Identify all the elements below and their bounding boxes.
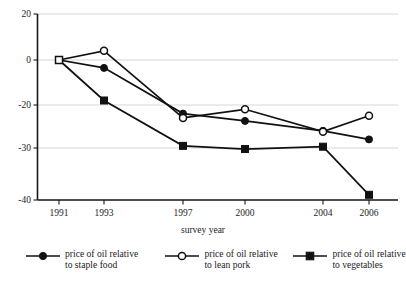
y-tick-label: -20 — [18, 100, 31, 110]
line-chart-plot: 200-20-30-40 199119931997200020042006 su… — [0, 0, 406, 283]
legend-label-staple-food: price of oil relative to staple food — [65, 248, 138, 270]
x-tick-label: 2006 — [360, 208, 379, 218]
data-point-s2-i2 — [180, 142, 187, 149]
y-tick-label: 20 — [22, 9, 32, 19]
data-point-s2-i4 — [320, 143, 327, 150]
data-point-s1-i1 — [101, 47, 108, 54]
x-axis-tick-labels: 199119931997200020042006 — [50, 208, 379, 218]
gridlines — [38, 14, 399, 200]
series-lines — [59, 51, 369, 195]
x-tick-label: 1997 — [174, 208, 193, 218]
x-tick-label: 1993 — [95, 208, 114, 218]
y-tick-label: 0 — [26, 55, 31, 65]
y-tick-label: -30 — [18, 143, 31, 153]
data-point-s1-i3 — [242, 106, 249, 113]
legend-swatch-filled-square — [291, 249, 329, 263]
legend-label-lean-pork: price of oil relative to lean pork — [204, 248, 277, 270]
data-point-s0-i3 — [242, 117, 249, 124]
y-tick-label: -40 — [18, 195, 31, 205]
legend-item-vegetables: price of oil relative to vegetables — [291, 248, 406, 270]
x-axis-title: survey year — [181, 225, 226, 235]
data-point-s2-i1 — [101, 97, 108, 104]
series-markers — [56, 47, 373, 198]
series-line-1 — [59, 51, 369, 132]
data-point-s1-i4 — [320, 128, 327, 135]
y-axis-tick-labels: 200-20-30-40 — [18, 9, 31, 205]
data-point-s0-i1 — [101, 64, 108, 71]
chart-container: 200-20-30-40 199119931997200020042006 su… — [0, 0, 406, 283]
data-point-s2-i5 — [366, 191, 373, 198]
legend-label-vegetables: price of oil relative to vegetables — [332, 248, 405, 270]
data-point-s1-i5 — [366, 112, 373, 119]
x-tick-label: 2004 — [314, 208, 333, 218]
data-point-s0-i5 — [366, 136, 373, 143]
legend-item-lean-pork: price of oil relative to lean pork — [163, 248, 291, 270]
legend-swatch-open-circle — [163, 249, 201, 263]
x-tick-label: 2000 — [236, 208, 255, 218]
x-tick-label: 1991 — [50, 208, 69, 218]
data-point-origin — [56, 57, 63, 64]
legend-swatch-filled-circle — [24, 249, 62, 263]
data-point-s1-i2 — [180, 114, 187, 121]
chart-legend: price of oil relative to staple food pri… — [0, 248, 406, 283]
data-point-s2-i3 — [242, 146, 249, 153]
legend-item-staple-food: price of oil relative to staple food — [24, 248, 163, 270]
